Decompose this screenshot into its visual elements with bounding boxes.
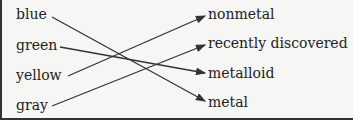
right-item-nonmetal: nonmetal — [208, 6, 274, 22]
arrow-green-metalloid — [60, 47, 205, 73]
left-item-yellow: yellow — [16, 67, 62, 83]
left-item-gray: gray — [16, 97, 48, 113]
right-item-metal: metal — [208, 94, 248, 110]
left-item-green: green — [16, 37, 57, 53]
connector-arrows — [0, 0, 353, 120]
right-item-metalloid: metalloid — [208, 65, 274, 81]
arrow-gray-recently-discovered — [52, 45, 205, 106]
left-item-blue: blue — [16, 6, 47, 22]
arrow-yellow-nonmetal — [68, 16, 205, 76]
right-item-recently-discovered: recently discovered — [208, 35, 348, 51]
